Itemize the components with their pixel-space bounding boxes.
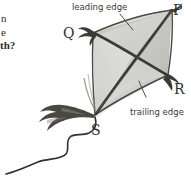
annotation-leading-edge: leading edge <box>72 2 127 12</box>
vertex-label-q: Q <box>63 25 74 41</box>
tail-bow <box>39 105 95 131</box>
kite-illustration: leading edge trailing edge P Q R S <box>0 0 191 176</box>
vertex-label-s: S <box>91 122 101 138</box>
annotation-trailing-edge: trailing edge <box>130 107 184 117</box>
vertex-label-p: P <box>173 2 182 18</box>
vertex-label-r: R <box>174 81 185 97</box>
